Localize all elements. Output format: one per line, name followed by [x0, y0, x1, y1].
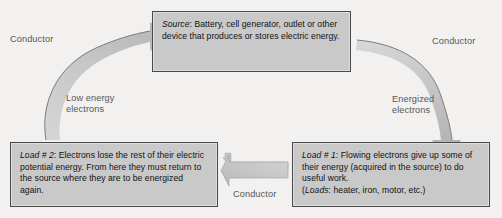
label-energized-electrons: Energized electrons	[392, 94, 434, 117]
load2-box: Load # 2: Electrons lose the rest of the…	[10, 142, 218, 207]
source-box: Source: Battery, cell generator, outlet …	[152, 11, 351, 72]
label-conductor-bottom: Conductor	[233, 189, 276, 200]
label-low-energy-electrons: Low energy electrons	[66, 93, 115, 116]
source-box-text: Source: Battery, cell generator, outlet …	[153, 12, 350, 48]
load1-box-text: Load # 1: Flowing electrons give up some…	[293, 143, 489, 202]
label-conductor-right: Conductor	[432, 36, 475, 47]
conductor-arrow	[221, 153, 288, 186]
label-conductor-left: Conductor	[10, 34, 53, 45]
load1-box: Load # 1: Flowing electrons give up some…	[292, 142, 490, 207]
load2-box-text: Load # 2: Electrons lose the rest of the…	[11, 143, 217, 202]
